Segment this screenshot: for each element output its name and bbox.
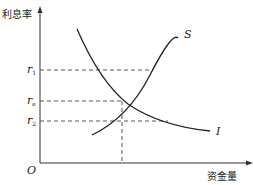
supply-curve-s	[92, 37, 178, 135]
x-axis-arrow-icon	[246, 161, 253, 166]
x-axis-label: 资金量	[207, 170, 237, 182]
investment-curve-i	[77, 29, 210, 131]
interest-rate-chart: 利息率 资金量 O r1 re r2 S I	[0, 0, 253, 185]
r2-label: r2	[27, 114, 36, 127]
y-axis-label: 利息率	[2, 8, 32, 20]
r1-label: r1	[27, 63, 36, 76]
y-axis-arrow-icon	[38, 6, 43, 13]
re-label: re	[27, 94, 36, 107]
origin-label: O	[27, 164, 36, 177]
i-curve-label: I	[215, 125, 221, 138]
s-curve-label: S	[184, 28, 192, 41]
